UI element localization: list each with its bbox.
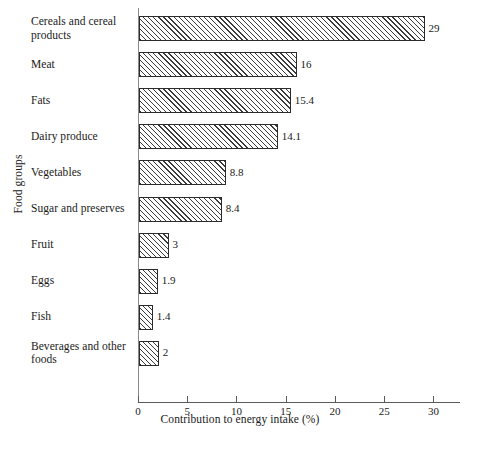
category-label: Meat — [31, 58, 135, 72]
bar — [139, 16, 425, 41]
category-label: Cereals and cereal products — [31, 15, 135, 42]
bar — [139, 269, 158, 294]
bar-value-label: 14.1 — [282, 130, 301, 142]
bar — [139, 52, 297, 77]
bar — [139, 233, 169, 258]
category-label: Fish — [31, 310, 135, 324]
category-label: Fats — [31, 94, 135, 108]
plot-area: 051015202530 291615.414.18.88.431.91.42 — [138, 8, 460, 402]
x-axis-tick-mark — [236, 396, 237, 403]
x-axis-tick-mark — [433, 396, 434, 403]
x-axis-tick-mark — [286, 396, 287, 403]
x-axis-tick-mark — [335, 396, 336, 403]
bar — [139, 197, 222, 222]
bar-value-label: 8.8 — [230, 166, 244, 178]
x-axis-tick-mark — [384, 396, 385, 403]
x-axis-tick-mark — [138, 396, 139, 403]
category-label: Beverages and other foods — [31, 340, 135, 367]
x-axis-title: Contribution to energy intake (%) — [0, 413, 480, 425]
category-label: Sugar and preserves — [31, 202, 135, 216]
y-axis-title: Food groups — [12, 124, 24, 244]
bar-value-label: 8.4 — [226, 202, 240, 214]
bar-value-label: 16 — [301, 58, 312, 70]
category-label: Vegetables — [31, 166, 135, 180]
bar-value-label: 29 — [429, 22, 440, 34]
x-axis-tick-mark — [187, 396, 188, 403]
bar-value-label: 1.4 — [157, 310, 171, 322]
bar — [139, 341, 159, 366]
category-label: Fruit — [31, 238, 135, 252]
bar — [139, 124, 278, 149]
bar-value-label: 1.9 — [162, 274, 176, 286]
bar — [139, 88, 291, 113]
bar-value-label: 2 — [163, 346, 169, 358]
bar-value-label: 3 — [173, 238, 179, 250]
category-label: Dairy produce — [31, 130, 135, 144]
category-label: Eggs — [31, 274, 135, 288]
bar-chart: Food groups Cereals and cereal productsM… — [0, 0, 480, 451]
bar-value-label: 15.4 — [295, 94, 314, 106]
bar — [139, 305, 153, 330]
bar — [139, 160, 226, 185]
